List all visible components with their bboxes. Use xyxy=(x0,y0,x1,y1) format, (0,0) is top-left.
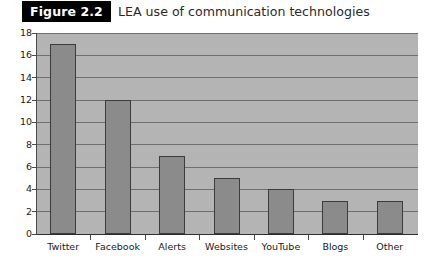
figure-header: Figure 2.2 LEA use of communication tech… xyxy=(0,0,442,26)
x-axis-tick-mark xyxy=(308,235,309,240)
figure-number-badge: Figure 2.2 xyxy=(22,1,111,22)
x-axis-tick-marks xyxy=(36,235,417,240)
y-axis-tick-label: 16 xyxy=(2,50,32,60)
bar xyxy=(105,100,131,234)
x-axis-tick-label: Blogs xyxy=(308,241,362,253)
bar xyxy=(214,178,240,234)
x-axis-tick-mark xyxy=(254,235,255,240)
y-axis-tick-label: 14 xyxy=(2,73,32,83)
y-axis-tick-label: 18 xyxy=(2,28,32,38)
x-axis-tick-mark xyxy=(145,235,146,240)
bar xyxy=(322,201,348,235)
y-axis-tick-label: 2 xyxy=(2,207,32,217)
y-axis-tick-label: 6 xyxy=(2,162,32,172)
y-axis-tick-label: 12 xyxy=(2,95,32,105)
x-axis-tick-label: Facebook xyxy=(90,241,144,253)
x-axis-labels: TwitterFacebookAlertsWebsitesYouTubeBlog… xyxy=(36,241,417,257)
bars-layer xyxy=(36,33,417,234)
bar xyxy=(50,44,76,234)
x-axis-tick-mark xyxy=(199,235,200,240)
x-axis-tick-mark xyxy=(90,235,91,240)
x-axis-tick-label: Twitter xyxy=(36,241,90,253)
x-axis-tick-label: Websites xyxy=(199,241,253,253)
bar-chart: 024681012141618 TwitterFacebookAlertsWeb… xyxy=(0,26,442,260)
y-axis-tick-label: 8 xyxy=(2,140,32,150)
x-axis-tick-label: Other xyxy=(363,241,417,253)
x-axis-tick-mark xyxy=(363,235,364,240)
y-axis-tick-label: 0 xyxy=(2,229,32,239)
y-axis-tick-label: 4 xyxy=(2,184,32,194)
bar xyxy=(268,189,294,234)
y-axis-labels: 024681012141618 xyxy=(0,33,32,234)
bar xyxy=(377,201,403,235)
x-axis-tick-label: YouTube xyxy=(254,241,308,253)
x-axis-tick-label: Alerts xyxy=(145,241,199,253)
bar xyxy=(159,156,185,234)
figure-title: LEA use of communication technologies xyxy=(118,1,370,22)
y-axis-tick-label: 10 xyxy=(2,117,32,127)
